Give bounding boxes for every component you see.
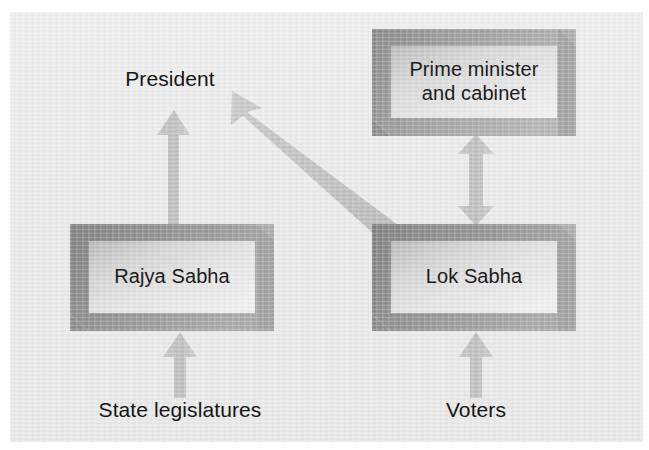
- box-lok-sabha: [372, 224, 576, 331]
- arrow-state-legislatures-to-rajya-sabha: [163, 332, 197, 398]
- node-label-president: President: [60, 67, 280, 91]
- node-label-voters: Voters: [366, 398, 586, 422]
- diagram-canvas: President Prime minister and cabinet Raj…: [10, 12, 643, 442]
- node-label-state-legislatures: State legislatures: [45, 398, 315, 422]
- box-prime-minister: [372, 29, 576, 136]
- arrow-lok-sabha-prime-minister-double: [458, 134, 494, 226]
- box-rajya-sabha: [70, 224, 274, 331]
- diagram-root: g: [0, 0, 649, 450]
- arrow-voters-to-lok-sabha: [459, 332, 493, 398]
- arrow-rajya-sabha-to-president: [157, 110, 190, 244]
